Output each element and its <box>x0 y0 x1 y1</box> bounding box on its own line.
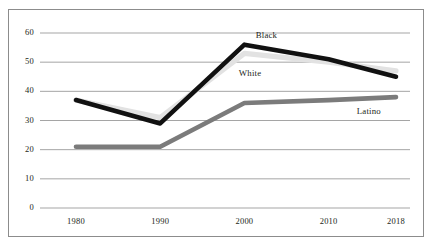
x-tick-label-1980: 1980 <box>56 216 96 226</box>
series-line-latino <box>76 97 396 147</box>
x-tick-label-1990: 1990 <box>140 216 180 226</box>
y-tick-label-50: 50 <box>8 56 34 66</box>
x-tick-label-2018: 2018 <box>376 216 416 226</box>
y-tick-label-40: 40 <box>8 85 34 95</box>
series-label-white: White <box>239 68 262 78</box>
series-paths-group <box>76 45 396 147</box>
x-tick-label-2000: 2000 <box>224 216 264 226</box>
gridlines-group <box>40 33 410 208</box>
y-tick-label-0: 0 <box>8 202 34 212</box>
series-label-black: Black <box>256 30 278 40</box>
x-tick-label-2010: 2010 <box>309 216 349 226</box>
line-chart-plot <box>0 0 434 251</box>
y-tick-label-10: 10 <box>8 173 34 183</box>
series-line-black <box>76 45 396 124</box>
y-tick-label-30: 30 <box>8 115 34 125</box>
series-label-latino: Latino <box>357 106 381 116</box>
y-tick-label-20: 20 <box>8 144 34 154</box>
y-tick-label-60: 60 <box>8 27 34 37</box>
